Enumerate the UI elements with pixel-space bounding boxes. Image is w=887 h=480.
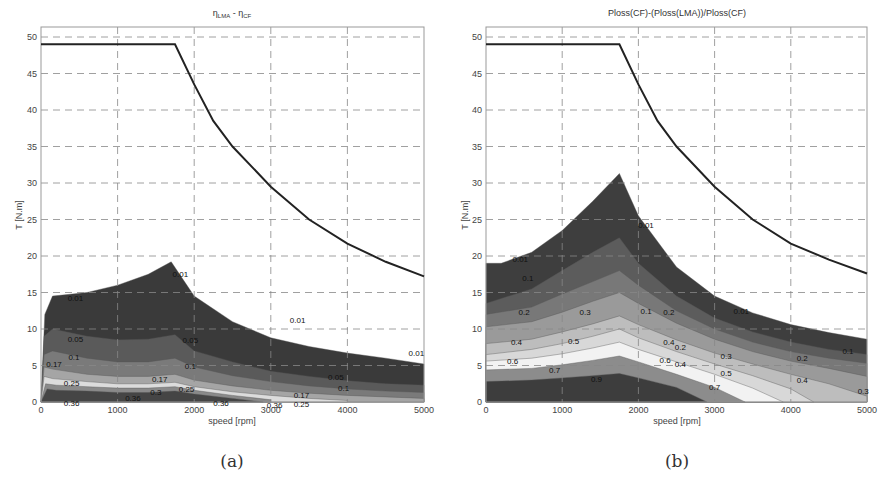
y-tick-label: 45 <box>472 69 482 79</box>
contour-label: 0.6 <box>507 357 519 366</box>
contour-label: 0.9 <box>591 375 603 384</box>
contour-label: 0.4 <box>797 376 809 385</box>
contour-label: 0.36 <box>64 399 80 408</box>
y-tick-label: 35 <box>27 142 37 152</box>
contour-label: 0.7 <box>709 383 721 392</box>
contour-label: 0.05 <box>328 373 344 382</box>
chart-title-b: Ploss(CF)-(Ploss(LMA))/Ploss(CF) <box>608 8 746 18</box>
y-tick-label: 5 <box>32 361 37 371</box>
contour-label: 0.3 <box>150 388 162 397</box>
contour-label: 0.7 <box>549 366 561 375</box>
contour-label: 0.25 <box>179 385 195 394</box>
y-tick-label: 20 <box>472 251 482 261</box>
contour-label: 0.01 <box>290 316 306 325</box>
y-tick-label: 25 <box>27 215 37 225</box>
contour-label: 0.17 <box>152 375 168 384</box>
contour-bands-a <box>41 262 424 402</box>
contour-label: 0.3 <box>579 308 591 317</box>
torque-limit-line <box>41 44 424 276</box>
figure: ηLMA - ηCF 0.010.010.010.010.050.050.050… <box>0 0 887 480</box>
y-axis-label-a: T [N.m] <box>14 200 24 229</box>
y-tick-label: 40 <box>472 105 482 115</box>
y-axis-label-b: T [N.m] <box>460 200 470 229</box>
x-tick-label: 2000 <box>628 405 648 415</box>
x-tick-label: 2000 <box>184 405 204 415</box>
x-tick-label: 3000 <box>705 405 725 415</box>
contour-label: 0.2 <box>519 308 531 317</box>
y-tick-label: 20 <box>27 251 37 261</box>
contour-label: 0.2 <box>797 354 809 363</box>
contour-label: 0.3 <box>720 352 732 361</box>
x-tick-label: 4000 <box>781 405 801 415</box>
contour-label: 0.05 <box>183 336 199 345</box>
contour-label: 0.1 <box>338 384 350 393</box>
y-tick-label: 10 <box>27 324 37 334</box>
contour-label: 0.17 <box>46 360 62 369</box>
y-tick-label: 35 <box>472 142 482 152</box>
x-tick-label: 0 <box>38 405 43 415</box>
y-tick-label: 10 <box>472 324 482 334</box>
contour-label: 0.25 <box>294 400 310 409</box>
y-tick-label: 40 <box>27 105 37 115</box>
contour-label: 0.3 <box>858 387 870 396</box>
contour-label: 0.4 <box>663 338 675 347</box>
y-tick-label: 50 <box>472 32 482 42</box>
chart-title-a: ηLMA - ηCF <box>213 8 252 19</box>
y-tick-label: 0 <box>477 397 482 407</box>
x-axis-label-b: speed [rpm] <box>653 416 701 426</box>
contour-label: 0.17 <box>294 391 310 400</box>
contour-label: 0.01 <box>733 307 749 316</box>
y-tick-label: 30 <box>27 178 37 188</box>
contour-label: 0.01 <box>638 221 654 230</box>
contour-label: 0.01 <box>68 294 84 303</box>
y-tick-label: 15 <box>27 288 37 298</box>
torque-limit-curve-b <box>486 44 867 273</box>
contour-label: 0.25 <box>64 379 80 388</box>
x-tick-label: 3000 <box>261 405 281 415</box>
torque-limit-curve-a <box>41 44 424 276</box>
contour-label: 0.4 <box>675 360 687 369</box>
contour-label: 0.36 <box>125 394 141 403</box>
contour-label: 0.5 <box>720 369 732 378</box>
x-tick-label: 1000 <box>552 405 572 415</box>
contour-label: 0.1 <box>522 274 534 283</box>
contour-label: 0.01 <box>513 255 529 264</box>
x-tick-label: 0 <box>483 405 488 415</box>
y-tick-label: 45 <box>27 69 37 79</box>
contour-label: 0.05 <box>68 335 84 344</box>
contour-label: 0.2 <box>663 308 675 317</box>
contour-label: 0.5 <box>568 337 580 346</box>
x-tick-label: 4000 <box>337 405 357 415</box>
contour-label: 0.01 <box>173 270 189 279</box>
contour-label: 0.01 <box>409 349 425 358</box>
y-tick-label: 0 <box>32 397 37 407</box>
y-tick-label: 25 <box>472 215 482 225</box>
contour-label: 0.1 <box>640 307 652 316</box>
x-tick-label: 1000 <box>108 405 128 415</box>
y-tick-label: 15 <box>472 288 482 298</box>
y-tick-label: 50 <box>27 32 37 42</box>
x-axis-label-a: speed [rpm] <box>208 416 256 426</box>
contour-label: 0.2 <box>675 343 687 352</box>
caption-a: (a) <box>220 451 243 471</box>
contour-label: 0.4 <box>511 338 523 347</box>
contour-chart-efficiency-difference: ηLMA - ηCF 0.010.010.010.010.050.050.050… <box>14 8 434 471</box>
contour-label: 0.1 <box>68 353 80 362</box>
y-tick-label: 30 <box>472 178 482 188</box>
contour-label: 0.36 <box>213 399 229 408</box>
contour-label: 0.1 <box>185 362 197 371</box>
y-tick-label: 5 <box>477 361 482 371</box>
caption-b: (b) <box>665 451 689 471</box>
torque-limit-line <box>486 44 867 273</box>
contour-label: 0.6 <box>660 356 672 365</box>
contour-chart-power-loss-ratio: Ploss(CF)-(Ploss(LMA))/Ploss(CF) 0.010.0… <box>460 8 877 471</box>
contour-label: 0.1 <box>842 347 854 356</box>
x-tick-label: 5000 <box>414 405 434 415</box>
x-tick-label: 5000 <box>857 405 877 415</box>
